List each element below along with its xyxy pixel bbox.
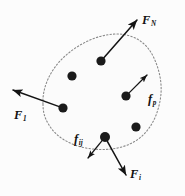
label-F-N-subscript: N	[151, 20, 156, 28]
label-F-1-subscript: 1	[23, 115, 27, 123]
label-force-f-ij: fij	[74, 130, 83, 147]
particle-lower-right	[131, 122, 140, 131]
diagram-canvas	[0, 0, 185, 196]
particle-upper-left	[67, 71, 76, 80]
label-F-i-base: F	[130, 167, 139, 181]
label-force-f-p: fp	[148, 90, 156, 107]
label-f-ij-base: f	[74, 132, 78, 146]
label-force-F-i: Fi	[130, 165, 141, 182]
label-f-p-base: f	[148, 92, 152, 106]
label-force-F-N: FN	[142, 11, 156, 28]
label-force-F-1: F1	[14, 106, 27, 123]
particle-left	[58, 103, 67, 112]
label-f-ij-subscript: ij	[79, 139, 83, 147]
label-f-p-subscript: p	[153, 99, 157, 107]
label-F-i-subscript: i	[139, 174, 141, 182]
particle-top	[96, 56, 105, 65]
particle-bottom	[100, 132, 110, 142]
physics-diagram-figure: FN F1 fp fij Fi	[0, 0, 185, 196]
label-F-N-base: F	[142, 13, 151, 27]
particle-right	[121, 91, 130, 100]
system-boundary-outline	[43, 34, 161, 149]
label-F-1-base: F	[14, 108, 23, 122]
